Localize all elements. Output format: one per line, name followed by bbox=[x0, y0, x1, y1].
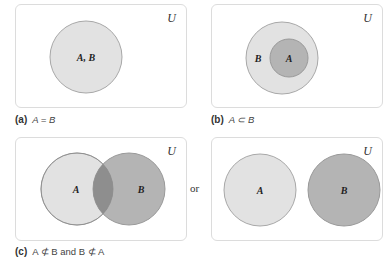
panel-a-diagram: A, B bbox=[16, 5, 188, 109]
caption-a-tag: (a) bbox=[15, 114, 27, 125]
panel-b-universe-box: B A U bbox=[211, 4, 383, 108]
universe-label: U bbox=[167, 144, 176, 159]
panel-c-disjoint-universe-box: A B U bbox=[211, 137, 383, 241]
caption-c-relation: A ⊄ B and B ⊄ A bbox=[32, 246, 104, 257]
caption-c: (c)A ⊄ B and B ⊄ A bbox=[15, 246, 104, 257]
universe-label: U bbox=[363, 11, 372, 26]
panel-c-disjoint-diagram: A B bbox=[212, 138, 384, 242]
panel-c-overlap-universe-box: A B U bbox=[15, 137, 187, 241]
set-b-label: B bbox=[340, 185, 348, 196]
panel-c-overlap-diagram: A B bbox=[16, 138, 188, 242]
panel-b-diagram: B A bbox=[212, 5, 384, 109]
set-a-label: A bbox=[285, 53, 293, 64]
universe-label: U bbox=[363, 144, 372, 159]
or-connector: or bbox=[190, 182, 199, 194]
set-a-label: A bbox=[72, 184, 80, 195]
panel-a-universe-box: A, B U bbox=[15, 4, 187, 108]
caption-a: (a)A = B bbox=[15, 114, 55, 125]
set-a-b-label: A, B bbox=[76, 52, 96, 63]
caption-c-tag: (c) bbox=[15, 246, 27, 257]
set-b-label: B bbox=[137, 184, 145, 195]
set-a-label: A bbox=[256, 185, 264, 196]
universe-label: U bbox=[167, 11, 176, 26]
set-b-label: B bbox=[254, 53, 262, 64]
caption-b-tag: (b) bbox=[211, 114, 224, 125]
caption-b-relation: A ⊂ B bbox=[229, 114, 255, 125]
caption-b: (b)A ⊂ B bbox=[211, 114, 254, 125]
caption-a-relation: A = B bbox=[32, 114, 55, 125]
